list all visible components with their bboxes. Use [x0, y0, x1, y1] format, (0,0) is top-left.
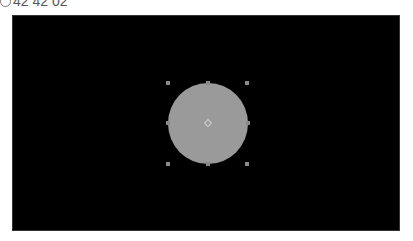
resize-handle-top[interactable]: [206, 81, 210, 85]
resize-handle-top-left[interactable]: [166, 81, 170, 85]
header: 42 42 02: [0, 0, 68, 8]
resize-handle-bottom[interactable]: [206, 162, 210, 166]
clock-icon: [0, 0, 11, 7]
resize-handle-bottom-left[interactable]: [166, 162, 170, 166]
selected-circle-shape[interactable]: [168, 83, 248, 164]
resize-handle-right[interactable]: [246, 121, 250, 125]
resize-handle-top-right[interactable]: [245, 81, 249, 85]
time-label: 42 42 02: [13, 0, 68, 9]
resize-handle-left[interactable]: [166, 121, 170, 125]
resize-handle-bottom-right[interactable]: [245, 162, 249, 166]
